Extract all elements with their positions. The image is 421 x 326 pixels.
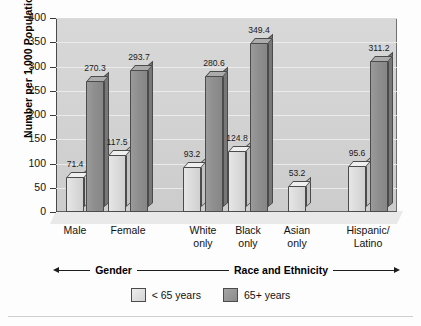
y-tick-label: 350 <box>28 35 46 47</box>
plot-floor-3d <box>50 211 403 224</box>
bar-value-label: 117.5 <box>107 137 128 147</box>
y-tick-mark <box>50 42 56 43</box>
category-label-line1: White <box>190 224 217 237</box>
y-tick-label: 150 <box>28 132 46 144</box>
y-tick-label: 300 <box>28 60 46 72</box>
gridline <box>56 18 397 19</box>
bar: 311.2 <box>370 61 388 212</box>
bar: 95.6 <box>348 166 366 212</box>
bar: 124.8 <box>228 151 246 212</box>
bar-face <box>205 76 223 212</box>
bar-side-3d <box>268 33 273 207</box>
bar-value-label: 95.6 <box>349 148 366 158</box>
axis-rule <box>137 270 168 271</box>
legend-item: 65+ years <box>223 288 290 302</box>
chart-legend: < 65 years65+ years <box>0 288 421 302</box>
group-label-gender: Gender <box>90 264 137 276</box>
category-label: Asianonly <box>284 224 310 249</box>
legend-label: < 65 years <box>152 289 201 301</box>
y-tick-label: 200 <box>28 108 46 120</box>
bar: 71.4 <box>66 177 84 212</box>
category-label: Whiteonly <box>190 224 217 249</box>
legend-label: 65+ years <box>244 289 290 301</box>
bar-value-label: 53.2 <box>289 168 306 178</box>
bar: 53.2 <box>288 186 306 212</box>
category-label-line2: only <box>235 237 261 250</box>
bar-value-label: 71.4 <box>67 159 84 169</box>
y-tick-mark <box>50 139 56 140</box>
category-label-line2: Latino <box>346 237 389 250</box>
y-tick-mark <box>50 188 56 189</box>
bar-value-label: 280.6 <box>203 58 225 68</box>
group-label-race-ethnicity: Race and Ethnicity <box>229 264 333 276</box>
bar-value-label: 349.4 <box>248 25 270 35</box>
legend-swatch <box>131 288 146 302</box>
bar-side-3d <box>148 60 153 207</box>
bar: 93.2 <box>183 167 201 212</box>
bar-side-3d <box>388 52 393 207</box>
bar-face <box>250 43 268 212</box>
y-tick-label: 50 <box>34 181 46 193</box>
category-label-line1: Black <box>235 224 261 237</box>
chart-figure: Number per 1,000 Population 400350300250… <box>0 0 421 326</box>
bar-face <box>348 166 366 212</box>
bar: 270.3 <box>86 81 104 212</box>
bar-face <box>108 155 126 212</box>
y-tick-label: 400 <box>28 11 46 23</box>
group-axis-race-ethnicity: Race and Ethnicity <box>168 262 400 278</box>
y-tick-label: 0 <box>40 205 46 217</box>
bar-face <box>130 70 148 212</box>
y-tick-mark <box>50 115 56 116</box>
legend-swatch <box>223 288 238 302</box>
axis-rule <box>168 270 229 271</box>
bar-face <box>66 177 84 212</box>
category-label: Hispanic/Latino <box>346 224 389 249</box>
y-tick-mark <box>50 91 56 92</box>
arrow-right-icon <box>394 267 400 273</box>
y-tick-label: 100 <box>28 157 46 169</box>
category-label: Male <box>64 224 87 237</box>
y-tick-mark <box>50 212 56 213</box>
category-label-line1: Female <box>110 224 145 237</box>
y-axis-title: Number per 1,000 Population <box>22 0 34 154</box>
category-label-line2: only <box>284 237 310 250</box>
category-label: Female <box>110 224 145 237</box>
bar-face <box>370 61 388 212</box>
category-label: Blackonly <box>235 224 261 249</box>
bar-face <box>183 167 201 212</box>
bar-face <box>86 81 104 212</box>
bar: 280.6 <box>205 76 223 212</box>
category-label-line2: only <box>190 237 217 250</box>
legend-item: < 65 years <box>131 288 201 302</box>
bar-face <box>288 186 306 212</box>
bar-face <box>228 151 246 212</box>
page-divider <box>8 316 413 317</box>
bar: 117.5 <box>108 155 126 212</box>
y-tick-mark <box>50 18 56 19</box>
bar: 349.4 <box>250 43 268 212</box>
category-label-line1: Hispanic/ <box>346 224 389 237</box>
group-axis-gender: Gender <box>53 262 168 278</box>
axis-rule <box>59 270 90 271</box>
bar-value-label: 93.2 <box>184 149 201 159</box>
bar-value-label: 293.7 <box>128 52 150 62</box>
gridline <box>56 42 397 43</box>
y-tick-mark <box>50 164 56 165</box>
axis-rule <box>333 270 394 271</box>
bar: 293.7 <box>130 70 148 212</box>
bar-value-label: 270.3 <box>84 63 106 73</box>
y-tick-label: 250 <box>28 84 46 96</box>
bar-value-label: 124.8 <box>226 133 248 143</box>
bar-value-label: 311.2 <box>369 43 390 53</box>
category-label-line1: Male <box>64 224 87 237</box>
y-tick-mark <box>50 67 56 68</box>
category-label-line1: Asian <box>284 224 310 237</box>
